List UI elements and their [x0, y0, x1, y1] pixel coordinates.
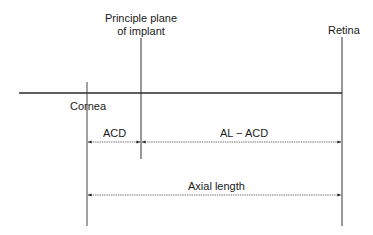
retina-label: Retina — [328, 24, 360, 37]
implant-plane-label-line1: Principle plane — [104, 12, 178, 25]
al-minus-acd-label: AL − ACD — [220, 127, 268, 140]
axial-length-label: Axial length — [188, 180, 245, 193]
diagram-canvas — [0, 0, 373, 235]
implant-plane-label: Principle plane of implant — [104, 12, 178, 38]
cornea-label: Cornea — [70, 100, 106, 113]
acd-label: ACD — [103, 127, 126, 140]
implant-plane-label-line2: of implant — [104, 25, 178, 38]
